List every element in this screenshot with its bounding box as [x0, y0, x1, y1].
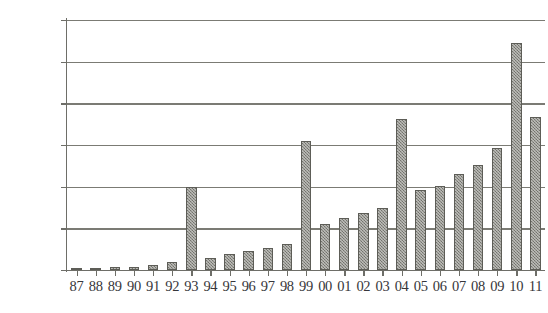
x-tick-label-92: 92 [163, 279, 182, 294]
x-tick-06 [440, 270, 441, 276]
x-tick-label-01: 01 [335, 279, 354, 294]
x-tick-label-97: 97 [258, 279, 277, 294]
gridline-300000 [67, 20, 545, 21]
bar-01 [339, 218, 350, 270]
x-tick-95 [230, 270, 231, 276]
x-tick-11 [535, 270, 536, 276]
bar-04 [396, 119, 407, 270]
bar-07 [454, 174, 465, 270]
x-tick-93 [191, 270, 192, 276]
x-tick-05 [421, 270, 422, 276]
x-tick-label-06: 06 [430, 279, 449, 294]
bar-08 [473, 165, 484, 270]
x-tick-label-08: 08 [469, 279, 488, 294]
gridline-200000 [67, 103, 545, 104]
x-tick-03 [382, 270, 383, 276]
x-tick-99 [306, 270, 307, 276]
x-tick-04 [402, 270, 403, 276]
x-tick-label-90: 90 [124, 279, 143, 294]
x-tick-87 [77, 270, 78, 276]
bar-06 [435, 186, 446, 270]
x-tick-label-89: 89 [105, 279, 124, 294]
x-tick-92 [172, 270, 173, 276]
bar-09 [492, 148, 503, 270]
x-tick-97 [268, 270, 269, 276]
y-tick-0 [61, 270, 67, 271]
bar-02 [358, 213, 369, 271]
x-tick-89 [115, 270, 116, 276]
x-tick-label-03: 03 [373, 279, 392, 294]
x-tick-label-94: 94 [201, 279, 220, 294]
bar-98 [282, 244, 293, 270]
x-tick-label-96: 96 [239, 279, 258, 294]
x-tick-label-93: 93 [182, 279, 201, 294]
x-tick-88 [96, 270, 97, 276]
y-tick-250000 [61, 62, 67, 63]
x-tick-07 [459, 270, 460, 276]
x-tick-label-10: 10 [507, 279, 526, 294]
y-tick-50000 [61, 228, 67, 229]
y-tick-100000 [61, 187, 67, 188]
bar-05 [415, 190, 426, 270]
x-tick-label-91: 91 [143, 279, 162, 294]
bar-11 [530, 117, 541, 270]
x-tick-label-98: 98 [277, 279, 296, 294]
x-tick-label-07: 07 [449, 279, 468, 294]
x-tick-08 [478, 270, 479, 276]
x-tick-label-09: 09 [488, 279, 507, 294]
x-tick-02 [363, 270, 364, 276]
bar-03 [377, 208, 388, 270]
x-tick-98 [287, 270, 288, 276]
x-tick-label-05: 05 [411, 279, 430, 294]
bar-94 [205, 258, 216, 271]
bar-chart-figure: 050000100000150000200000250000300000 878… [0, 0, 548, 313]
x-tick-01 [344, 270, 345, 276]
bar-97 [263, 248, 274, 270]
x-tick-label-87: 87 [67, 279, 86, 294]
bar-93 [186, 187, 197, 270]
bar-10 [511, 43, 522, 271]
bar-92 [167, 262, 178, 270]
x-tick-96 [249, 270, 250, 276]
x-tick-10 [516, 270, 517, 276]
x-tick-label-02: 02 [354, 279, 373, 294]
bar-99 [301, 141, 312, 270]
bar-95 [224, 254, 235, 270]
bar-00 [320, 224, 331, 270]
x-tick-94 [210, 270, 211, 276]
x-tick-09 [497, 270, 498, 276]
bar-96 [243, 251, 254, 270]
plot-area [67, 20, 545, 270]
y-tick-200000 [61, 103, 67, 104]
x-tick-label-95: 95 [220, 279, 239, 294]
x-tick-label-04: 04 [392, 279, 411, 294]
y-tick-150000 [61, 145, 67, 146]
x-tick-label-11: 11 [526, 279, 545, 294]
x-tick-91 [153, 270, 154, 276]
x-tick-90 [134, 270, 135, 276]
x-tick-label-99: 99 [296, 279, 315, 294]
x-tick-00 [325, 270, 326, 276]
x-tick-label-00: 00 [316, 279, 335, 294]
y-tick-300000 [61, 20, 67, 21]
x-tick-label-88: 88 [86, 279, 105, 294]
gridline-250000 [67, 62, 545, 63]
